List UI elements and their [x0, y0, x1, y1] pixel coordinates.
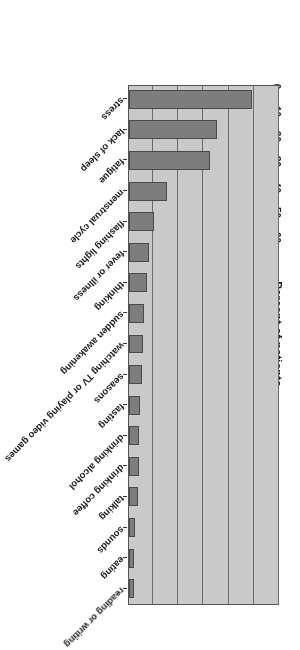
- category-label: sounds: [95, 524, 127, 556]
- bar: [129, 518, 135, 537]
- bar: [129, 457, 139, 476]
- bar-row: [129, 365, 278, 384]
- bar: [129, 335, 143, 354]
- category-label: reading or writing: [62, 585, 127, 650]
- bar: [129, 549, 134, 568]
- bar: [129, 90, 252, 109]
- bar-row: [129, 487, 278, 506]
- bar: [129, 273, 147, 292]
- bar-row: [129, 151, 278, 170]
- bar-row: [129, 212, 278, 231]
- bar: [129, 182, 167, 201]
- bar-row: [129, 426, 278, 445]
- category-label: talking: [97, 494, 126, 523]
- bar: [129, 120, 217, 139]
- bar-row: [129, 273, 278, 292]
- category-label: fatigue: [97, 157, 127, 187]
- gridline: [278, 86, 279, 604]
- bar: [129, 396, 140, 415]
- bar: [129, 151, 210, 170]
- bar: [129, 304, 144, 323]
- bar: [129, 426, 139, 445]
- category-label: fasting: [97, 402, 127, 432]
- category-label: stress: [99, 96, 127, 124]
- bar-row: [129, 182, 278, 201]
- bar: [129, 487, 138, 506]
- bar-row: [129, 304, 278, 323]
- bar-row: [129, 457, 278, 476]
- bar-row: [129, 518, 278, 537]
- bar-row: [129, 335, 278, 354]
- bar: [129, 212, 154, 231]
- bar-row: [129, 120, 278, 139]
- bar-row: [129, 579, 278, 598]
- bar-row: [129, 243, 278, 262]
- bar-row: [129, 549, 278, 568]
- bar-row: [129, 396, 278, 415]
- category-label: eating: [99, 555, 127, 583]
- category-axis-labels: stresslack of sleepfatiguemenstrual cycl…: [0, 85, 127, 605]
- plot-area: [128, 85, 279, 605]
- bar-row: [129, 90, 278, 109]
- bar: [129, 579, 134, 598]
- category-label: menstrual cycle: [68, 188, 127, 247]
- bar: [129, 243, 149, 262]
- bar: [129, 365, 142, 384]
